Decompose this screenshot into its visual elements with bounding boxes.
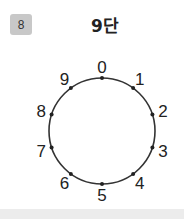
- point-label-8: 8: [36, 102, 45, 121]
- point-label-5: 5: [97, 186, 106, 205]
- point-dot-6: [69, 172, 73, 176]
- point-label-6: 6: [60, 174, 69, 193]
- point-label-9: 9: [60, 70, 69, 89]
- point-dot-7: [50, 145, 54, 149]
- point-dot-3: [150, 145, 154, 149]
- point-label-0: 0: [97, 58, 106, 77]
- point-label-1: 1: [135, 70, 144, 89]
- circle-points: 0123456789: [36, 58, 167, 205]
- point-dot-2: [150, 113, 154, 117]
- point-label-4: 4: [135, 174, 144, 193]
- point-label-2: 2: [158, 102, 167, 121]
- point-label-3: 3: [158, 142, 167, 161]
- circle-outline: [49, 78, 155, 184]
- number-circle-diagram: 0123456789: [0, 0, 184, 219]
- point-dot-9: [69, 86, 73, 90]
- point-label-7: 7: [36, 142, 45, 161]
- bottom-divider: [0, 209, 184, 219]
- point-dot-8: [50, 113, 54, 117]
